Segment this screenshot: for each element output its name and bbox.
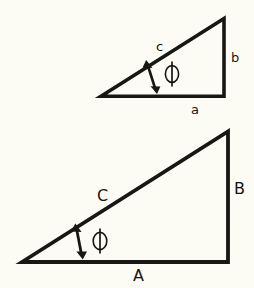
large-triangle-horizontal-label: A — [133, 268, 144, 284]
small-angle-arrow-head-down — [151, 86, 161, 94]
large-phi-angle-marker — [71, 224, 87, 260]
large-angle-arrow-shaft — [77, 229, 82, 255]
large-right-triangle — [22, 132, 228, 263]
large-triangle-outline — [22, 132, 228, 263]
large-triangle-hypotenuse-label: C — [97, 188, 108, 204]
large-angle-arrow-head-down — [76, 251, 87, 259]
triangles-diagram — [0, 0, 254, 288]
small-right-triangle — [101, 19, 224, 97]
small-phi-symbol — [165, 62, 178, 87]
large-triangle-vertical-label: B — [234, 181, 245, 197]
figure-root: c b a C B A — [0, 0, 254, 288]
small-triangle-outline — [101, 19, 224, 97]
large-phi-symbol — [93, 229, 107, 254]
small-triangle-horizontal-label: a — [191, 103, 199, 116]
small-triangle-vertical-label: b — [231, 51, 239, 64]
small-angle-arrow-shaft — [148, 65, 156, 90]
small-triangle-hypotenuse-label: c — [156, 40, 163, 53]
